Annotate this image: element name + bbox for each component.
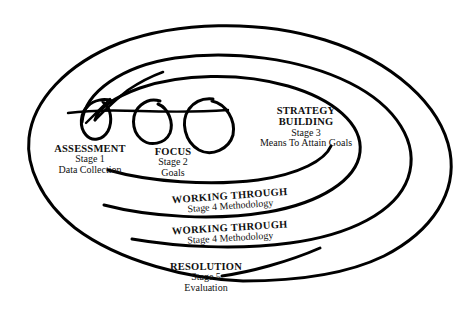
stage-label-resolution: RESOLUTION Stage 5 Evaluation (148, 261, 264, 294)
loop-focus (134, 100, 172, 143)
stage-label-assessment: ASSESSMENT Stage 1 Data Collection (34, 143, 146, 176)
threading-line (68, 110, 228, 113)
loop-third (184, 99, 233, 153)
stage-label-focus: FOCUS Stage 2 Goals (137, 146, 209, 179)
focus-description: Goals (137, 168, 209, 179)
stage-label-strategy-building: STRATEGY BUILDING Stage 3 Means To Attai… (240, 105, 372, 149)
assessment-description: Data Collection (34, 165, 146, 176)
spiral-diagram: ASSESSMENT Stage 1 Data Collection FOCUS… (0, 0, 473, 317)
strategy-description: Means To Attain Goals (240, 138, 372, 149)
spiral-entry-stroke (95, 72, 163, 120)
strategy-title-line1: STRATEGY (240, 105, 372, 116)
strategy-title-line2: BUILDING (240, 116, 372, 127)
resolution-description: Evaluation (148, 283, 264, 294)
